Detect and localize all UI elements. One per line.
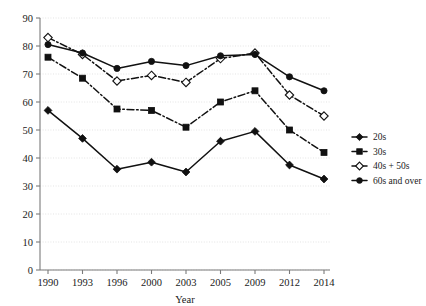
y-tick-label-10: 10 bbox=[23, 237, 34, 248]
y-tick-label-70: 70 bbox=[23, 69, 34, 80]
data-point-1-6 bbox=[252, 88, 258, 94]
x-tick-label-2000: 2000 bbox=[141, 277, 162, 288]
data-point-3-2 bbox=[114, 65, 120, 71]
y-tick-label-40: 40 bbox=[23, 153, 34, 164]
data-point-1-4 bbox=[183, 124, 189, 130]
legend-marker-3 bbox=[357, 178, 363, 184]
data-point-3-6 bbox=[252, 51, 258, 57]
y-tick-label-50: 50 bbox=[23, 125, 34, 136]
chart-figure: 0102030405060708090 19901993199620002003… bbox=[0, 0, 426, 306]
legend-marker-1 bbox=[357, 149, 363, 155]
data-point-1-0 bbox=[45, 54, 51, 60]
y-tick-label-0: 0 bbox=[28, 265, 33, 276]
axis-titles-group: Year bbox=[175, 294, 195, 305]
y-tick-label-90: 90 bbox=[23, 13, 34, 24]
x-tick-label-1996: 1996 bbox=[107, 277, 128, 288]
data-point-1-3 bbox=[149, 107, 155, 113]
x-tick-label-2014: 2014 bbox=[314, 277, 336, 288]
data-point-3-1 bbox=[79, 50, 85, 56]
legend-label-0: 20s bbox=[373, 132, 387, 142]
data-point-3-8 bbox=[321, 88, 327, 94]
legend-label-3: 60s and over bbox=[373, 176, 422, 186]
data-point-3-0 bbox=[45, 42, 51, 48]
legend-label-2: 40s + 50s bbox=[373, 161, 410, 171]
data-point-3-3 bbox=[148, 58, 154, 64]
data-point-1-5 bbox=[218, 99, 224, 105]
x-tick-labels-group: 199019931996200020032005200920122014 bbox=[38, 277, 336, 288]
data-point-1-2 bbox=[114, 106, 120, 112]
data-point-3-5 bbox=[217, 53, 223, 59]
x-axis-title: Year bbox=[175, 294, 195, 305]
y-tick-label-30: 30 bbox=[23, 181, 34, 192]
y-tick-label-20: 20 bbox=[23, 209, 34, 220]
data-point-1-8 bbox=[321, 149, 327, 155]
y-tick-label-60: 60 bbox=[23, 97, 34, 108]
data-point-1-1 bbox=[80, 75, 86, 81]
line-chart-svg: 0102030405060708090 19901993199620002003… bbox=[0, 0, 426, 306]
x-tick-label-2003: 2003 bbox=[176, 277, 197, 288]
x-tick-label-2009: 2009 bbox=[245, 277, 266, 288]
data-point-3-7 bbox=[286, 74, 292, 80]
legend-label-1: 30s bbox=[373, 147, 387, 157]
x-tick-label-1993: 1993 bbox=[72, 277, 93, 288]
x-tick-label-1990: 1990 bbox=[38, 277, 59, 288]
x-tick-label-2012: 2012 bbox=[279, 277, 300, 288]
x-tick-label-2005: 2005 bbox=[210, 277, 231, 288]
y-tick-label-80: 80 bbox=[23, 41, 34, 52]
data-point-1-7 bbox=[287, 127, 293, 133]
data-point-3-4 bbox=[183, 63, 189, 69]
